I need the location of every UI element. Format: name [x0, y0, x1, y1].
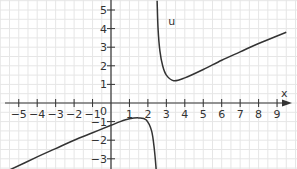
x-axis-label: x: [281, 87, 288, 100]
x-axis-arrow-icon: [282, 100, 292, 107]
x-tick-label: 3: [163, 108, 170, 121]
y-tick-label: 2: [100, 60, 107, 73]
x-tick-label: 4: [181, 108, 188, 121]
x-tick-label: −4: [29, 108, 45, 121]
x-tick-label: −2: [66, 108, 82, 121]
x-tick-label: −5: [11, 108, 27, 121]
x-tick-label: 6: [218, 108, 225, 121]
y-tick-label: 5: [100, 4, 107, 17]
function-graph: −5−4−3−2−1123456789−3−2−112345 x 0 u: [0, 0, 297, 169]
y-tick-label: −3: [91, 153, 107, 166]
origin-label: 0: [100, 105, 107, 118]
grid: [0, 0, 297, 169]
y-tick-label: 4: [100, 23, 107, 36]
y-tick-label: 1: [100, 78, 107, 91]
x-tick-label: 7: [237, 108, 244, 121]
curve-label-u: u: [168, 15, 175, 28]
x-tick-label: 5: [200, 108, 207, 121]
x-tick-label: 8: [255, 108, 262, 121]
x-tick-label: 9: [274, 108, 281, 121]
x-tick-label: −3: [48, 108, 64, 121]
y-tick-label: 3: [100, 41, 107, 54]
y-tick-label: −2: [91, 134, 107, 147]
